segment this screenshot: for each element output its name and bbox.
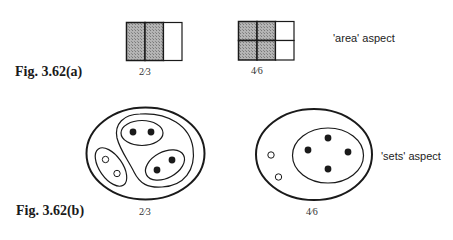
area-diagram-four-sixths bbox=[239, 22, 295, 61]
sets-diagram-four-sixths bbox=[256, 109, 372, 200]
fraction-label-area-right: 4⁄6 bbox=[251, 65, 263, 76]
fraction-label-sets-left: 2⁄3 bbox=[139, 206, 151, 217]
sets-aspect-label: 'sets' aspect bbox=[381, 150, 441, 162]
fraction-label-area-left: 2⁄3 bbox=[139, 66, 151, 77]
area-aspect-label: 'area' aspect bbox=[333, 32, 395, 44]
sets-diagram-two-thirds bbox=[87, 108, 205, 200]
area-diagram-two-thirds bbox=[127, 23, 183, 61]
figure-label-b: Fig. 3.62(b) bbox=[16, 203, 84, 219]
fraction-label-sets-right: 4⁄6 bbox=[306, 206, 318, 217]
figure-label-a: Fig. 3.62(a) bbox=[15, 64, 82, 80]
